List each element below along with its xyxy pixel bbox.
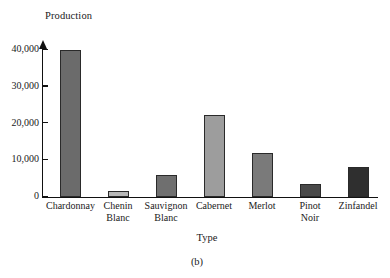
x-label-line1: Pinot [299, 200, 320, 211]
x-label-line1: Sauvignon [145, 200, 188, 211]
y-tick-label-4: 40,000 [12, 44, 40, 55]
x-label-chardonnay: Chardonnay [46, 200, 94, 212]
x-label-line2: Noir [286, 212, 334, 224]
x-label-sauvignon-blanc: SauvignonBlanc [142, 200, 190, 223]
y-tick-label-1: 10,000 [12, 154, 40, 165]
x-axis-category-labels: ChardonnayCheninBlancSauvignonBlancCaber… [42, 200, 378, 234]
plot-area: 010,00020,00030,00040,000 [42, 36, 378, 198]
y-tick-3: 30,000 [43, 85, 48, 86]
figure-caption: (b) [0, 256, 390, 267]
x-label-line2: Blanc [94, 212, 142, 224]
x-axis-title: Type [0, 232, 390, 243]
x-label-line1: Chardonnay [46, 200, 95, 211]
y-axis-arrow-icon [39, 40, 47, 49]
y-axis-line [42, 42, 43, 198]
x-label-chenin-blanc: CheninBlanc [94, 200, 142, 223]
bar-zinfandel [348, 167, 369, 197]
x-label-line1: Merlot [248, 200, 275, 211]
figure-caption-text: (b) [191, 256, 203, 267]
bar-pinot-noir [300, 184, 321, 197]
x-label-line1: Zinfandel [339, 200, 378, 211]
bar-merlot [252, 153, 273, 196]
y-tick-label-2: 20,000 [12, 117, 40, 128]
figure-b: Production 010,00020,00030,00040,000 Cha… [0, 0, 390, 278]
x-label-zinfandel: Zinfandel [334, 200, 382, 212]
x-label-pinot-noir: PinotNoir [286, 200, 334, 223]
x-label-line2: Blanc [142, 212, 190, 224]
x-label-line1: Cabernet [196, 200, 232, 211]
y-tick-1: 10,000 [43, 159, 48, 160]
x-label-merlot: Merlot [238, 200, 286, 212]
x-label-cabernet: Cabernet [190, 200, 238, 212]
bar-sauvignon-blanc [156, 175, 177, 197]
y-axis-title: Production [45, 10, 92, 21]
x-axis-line [42, 197, 378, 198]
bar-chenin-blanc [108, 191, 129, 197]
bar-cabernet [204, 115, 225, 196]
y-tick-2: 20,000 [43, 122, 48, 123]
y-tick-label-0: 0 [34, 190, 39, 201]
x-label-line1: Chenin [104, 200, 133, 211]
y-tick-4: 40,000 [43, 49, 48, 50]
bar-chardonnay [60, 50, 81, 197]
y-tick-0: 0 [43, 196, 48, 197]
y-tick-label-3: 30,000 [12, 80, 40, 91]
x-axis-title-text: Type [197, 232, 218, 243]
